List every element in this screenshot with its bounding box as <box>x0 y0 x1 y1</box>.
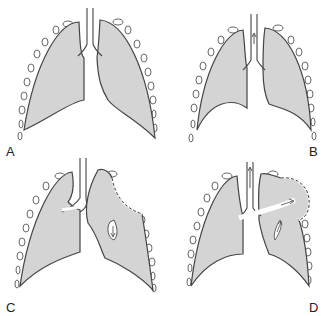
panel-b: B <box>163 0 326 158</box>
panel-a: A <box>0 0 163 158</box>
panel-label: B <box>309 144 318 159</box>
panel-d: D <box>163 158 326 316</box>
panel-label: D <box>309 300 318 315</box>
panel-label: A <box>6 144 15 159</box>
panel-c: C <box>0 158 163 316</box>
lungs-diagram-c <box>0 158 163 316</box>
panel-label: C <box>6 300 15 315</box>
lungs-diagram-d <box>163 158 327 316</box>
lungs-diagram-b <box>163 0 327 158</box>
lungs-diagram-a <box>0 0 163 158</box>
